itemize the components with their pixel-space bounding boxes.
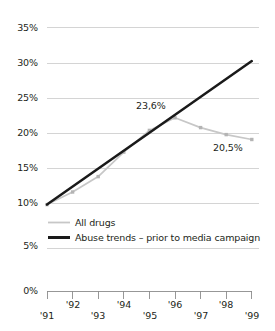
series-markers-all-drugs	[45, 116, 253, 206]
plot-area	[0, 0, 275, 331]
x-axis-label-98: '98	[212, 299, 240, 310]
x-axis-label-97: '97	[187, 310, 215, 321]
x-axis-label-91: '91	[33, 310, 61, 321]
x-axis-label-95: '95	[136, 310, 164, 321]
marker-99	[250, 138, 253, 141]
marker-93	[97, 175, 100, 178]
x-axis-label-93: '93	[84, 310, 112, 321]
marker-92	[71, 190, 74, 193]
x-axis-label-99: '99	[238, 310, 266, 321]
chart-container: 35% 30% 25% 20% 15% 10% 5% 0%	[0, 0, 275, 331]
annotation-end-value: 20,5%	[213, 142, 243, 153]
marker-98	[225, 133, 228, 136]
annotation-peak-value: 23,6%	[136, 100, 166, 111]
x-axis-label-96: '96	[161, 299, 189, 310]
legend-label-abuse-trends: Abuse trends – prior to media campaign	[75, 232, 260, 243]
x-axis-label-92: '92	[59, 299, 87, 310]
legend-label-all-drugs: All drugs	[75, 217, 115, 228]
marker-97	[199, 126, 202, 129]
gridlines	[47, 27, 259, 248]
x-axis-label-94: '94	[110, 299, 138, 310]
x-axis	[47, 291, 252, 299]
